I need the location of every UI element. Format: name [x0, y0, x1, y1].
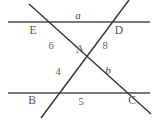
point-label-C: C — [128, 95, 136, 107]
point-label-A: A — [76, 44, 84, 56]
transversal-line-B-A-D — [41, 0, 129, 118]
angle-label-6: 6 — [48, 41, 53, 52]
point-label-D: D — [115, 25, 123, 37]
label-a: a — [75, 10, 81, 21]
point-label-E: E — [29, 25, 36, 37]
label-b: b — [105, 65, 111, 76]
point-label-B: B — [28, 95, 36, 107]
angle-label-8: 8 — [102, 41, 107, 52]
angle-label-4: 4 — [55, 67, 60, 78]
geometry-diagram: a E D 6 A 8 4 b B 5 C — [0, 0, 157, 121]
angle-label-5: 5 — [78, 97, 83, 108]
